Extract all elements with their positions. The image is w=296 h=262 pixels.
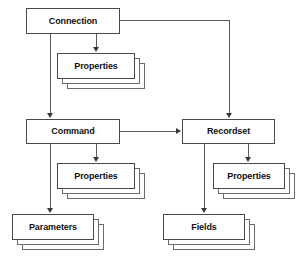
edge-recordset-properties-vertical <box>248 144 249 158</box>
edge-connection-recordset-vertical <box>229 20 230 114</box>
arrowhead-recordset-to-properties <box>245 157 251 162</box>
command-properties-box: Properties <box>57 163 135 189</box>
fields-box: Fields <box>163 214 245 240</box>
connection-properties-label: Properties <box>74 62 118 71</box>
node-command-properties[interactable]: Properties <box>57 163 135 189</box>
connection-properties-box: Properties <box>57 53 135 79</box>
connection-label: Connection <box>49 17 98 26</box>
node-recordset[interactable]: Recordset <box>182 119 275 144</box>
command-properties-label: Properties <box>74 172 118 181</box>
page-scan-artifact <box>22 0 202 6</box>
node-parameters[interactable]: Parameters <box>12 214 94 240</box>
recordset-properties-label: Properties <box>227 172 271 181</box>
edge-connection-properties-vertical <box>96 34 97 48</box>
command-label: Command <box>51 127 94 136</box>
connection-box: Connection <box>26 8 120 34</box>
node-fields[interactable]: Fields <box>163 214 245 240</box>
edge-connection-recordset-horizontal <box>120 20 230 21</box>
arrowhead-command-to-properties <box>93 157 99 162</box>
arrowhead-recordset-to-fields <box>201 208 207 213</box>
parameters-box: Parameters <box>12 214 94 240</box>
recordset-label: Recordset <box>207 127 250 136</box>
arrowhead-command-to-parameters <box>47 208 53 213</box>
command-box: Command <box>26 119 120 144</box>
recordset-properties-box: Properties <box>213 163 285 189</box>
edge-command-recordset-horizontal <box>120 131 177 132</box>
node-recordset-properties[interactable]: Properties <box>213 163 285 189</box>
arrowhead-command-to-recordset <box>176 128 181 134</box>
arrowhead-connection-to-recordset <box>226 113 232 118</box>
fields-label: Fields <box>191 223 216 232</box>
edge-connection-command-vertical <box>50 34 51 114</box>
arrowhead-connection-to-properties <box>93 47 99 52</box>
recordset-box: Recordset <box>182 119 275 144</box>
node-connection-properties[interactable]: Properties <box>57 53 135 79</box>
node-command[interactable]: Command <box>26 119 120 144</box>
parameters-label: Parameters <box>29 223 77 232</box>
edge-command-parameters-vertical <box>50 144 51 209</box>
edge-recordset-fields-vertical <box>204 144 205 209</box>
object-model-diagram: Connection Properties Command Properties… <box>0 0 296 262</box>
node-connection[interactable]: Connection <box>26 8 120 34</box>
edge-command-properties-vertical <box>96 144 97 158</box>
arrowhead-connection-to-command <box>47 113 53 118</box>
